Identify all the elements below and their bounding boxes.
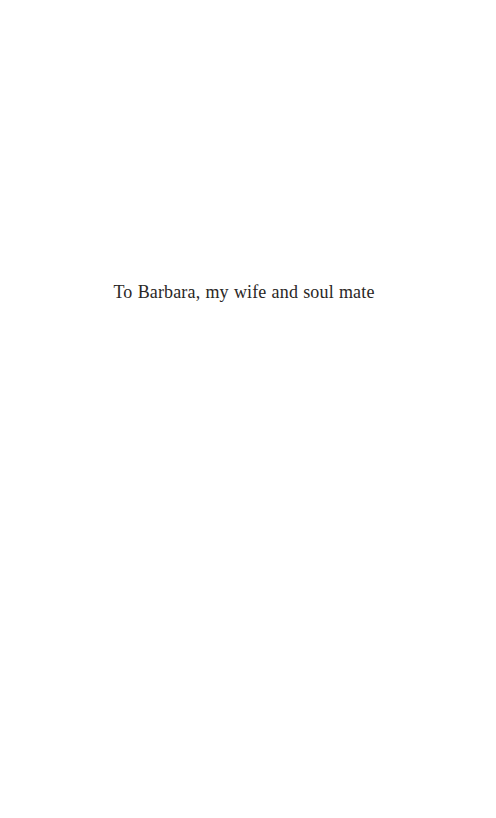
dedication-text: To Barbara, my wife and soul mate: [0, 281, 496, 303]
dedication-block: To Barbara, my wife and soul mate: [0, 0, 496, 818]
book-page: To Barbara, my wife and soul mate: [0, 0, 496, 818]
